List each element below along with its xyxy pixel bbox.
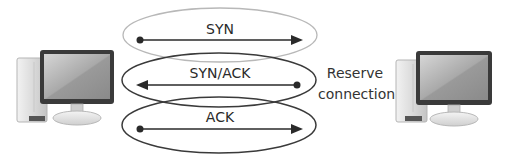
server-computer-icon <box>396 51 492 126</box>
ack-ellipse <box>122 97 316 153</box>
synack-message: SYN/ACK <box>122 53 316 107</box>
reserve-connection-note: Reserve connection <box>318 63 392 105</box>
syn-label: SYN <box>206 21 234 37</box>
syn-arrowhead-icon <box>291 35 303 45</box>
note-line-1: Reserve <box>318 63 392 84</box>
syn-message: SYN <box>123 8 317 62</box>
ack-label: ACK <box>206 109 235 125</box>
ack-message: ACK <box>122 97 316 153</box>
synack-arrowhead-icon <box>136 80 148 90</box>
note-line-2: connection <box>318 84 392 105</box>
handshake-diagram: SYN SYN/ACK ACK <box>0 0 510 162</box>
client-computer-icon <box>17 50 114 125</box>
ack-arrowhead-icon <box>291 124 303 134</box>
synack-label: SYN/ACK <box>190 65 252 81</box>
